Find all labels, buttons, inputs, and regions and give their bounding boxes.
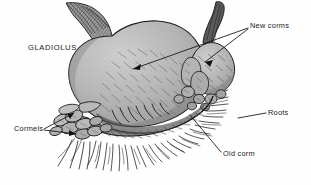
leader-roots [238, 113, 266, 118]
gladiolus-stem [66, 3, 112, 41]
label-roots: Roots [268, 109, 289, 116]
cormel-roots-group [58, 138, 90, 169]
gladiolus-corm-figure: GLADIOLUS New corms Roots Old corm Corme… [0, 0, 311, 185]
secondary-stem [203, 2, 224, 48]
label-old-corm: Old corm [223, 150, 255, 157]
label-cormels: Cormels [14, 125, 43, 132]
leader-old-corm [190, 115, 221, 152]
label-new-corms: New corms [250, 22, 289, 29]
label-gladiolus: GLADIOLUS [28, 44, 77, 52]
